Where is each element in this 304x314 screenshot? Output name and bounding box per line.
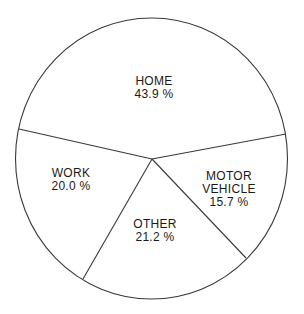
slice-work: WORK 20.0 % xyxy=(51,166,90,193)
slice-label-home: HOME xyxy=(135,74,172,88)
slice-motor-vehicle: MOTOR VEHICLE 15.7 % xyxy=(202,169,255,209)
slice-label-vehicle: VEHICLE xyxy=(202,182,255,196)
slice-value-home: 43.9 % xyxy=(134,87,173,101)
slice-label-work: WORK xyxy=(52,166,91,180)
slice-value-other: 21.2 % xyxy=(135,230,174,244)
slice-label-other: OTHER xyxy=(133,217,177,231)
slice-value-work: 20.0 % xyxy=(51,179,90,193)
slice-home: HOME 43.9 % xyxy=(134,74,173,101)
slice-label-motor: MOTOR xyxy=(206,169,252,183)
pie-chart: HOME 43.9 % MOTOR VEHICLE 15.7 % OTHER 2… xyxy=(0,0,304,314)
slice-value-motor-vehicle: 15.7 % xyxy=(209,195,248,209)
slice-other: OTHER 21.2 % xyxy=(133,217,177,244)
